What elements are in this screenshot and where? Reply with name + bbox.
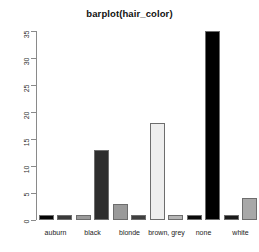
y-axis-tick-label: 0	[23, 220, 30, 242]
y-axis-tick-label: 25	[23, 85, 30, 107]
y-axis-tick	[31, 112, 36, 113]
bar	[57, 215, 72, 220]
bar	[76, 215, 91, 220]
y-axis-tick-label: 10	[23, 166, 30, 188]
y-axis-tick-label: 5	[23, 193, 30, 215]
x-axis-category-label: black	[84, 229, 100, 236]
y-axis-tick-label: 35	[23, 31, 30, 53]
x-axis-category-label: brown, grey	[148, 229, 185, 236]
bar	[168, 215, 183, 220]
y-axis-tick	[31, 85, 36, 86]
bar	[224, 215, 239, 220]
y-axis-tick	[31, 166, 36, 167]
x-axis-category-label: auburn	[45, 229, 67, 236]
chart-canvas: barplot(hair_color) 05101520253035 aubur…	[0, 0, 259, 252]
x-axis-category-label: white	[232, 229, 248, 236]
y-axis-tick	[31, 139, 36, 140]
bar	[113, 204, 128, 220]
bar	[39, 215, 54, 220]
y-axis-tick	[31, 31, 36, 32]
y-axis-tick	[31, 58, 36, 59]
y-axis-tick	[31, 220, 36, 221]
x-axis-category-label: none	[196, 229, 212, 236]
bar	[242, 198, 257, 220]
y-axis-tick-label: 20	[23, 112, 30, 134]
chart-title: barplot(hair_color)	[0, 8, 259, 19]
bar-series	[37, 31, 259, 220]
y-axis-tick-label: 30	[23, 58, 30, 80]
y-axis-tick-label: 15	[23, 139, 30, 161]
bar	[131, 215, 146, 220]
y-axis-tick	[31, 193, 36, 194]
bar	[187, 215, 202, 220]
bar	[150, 123, 165, 220]
bar	[205, 31, 220, 220]
bar	[94, 150, 109, 220]
x-axis-category-label: blonde	[119, 229, 140, 236]
